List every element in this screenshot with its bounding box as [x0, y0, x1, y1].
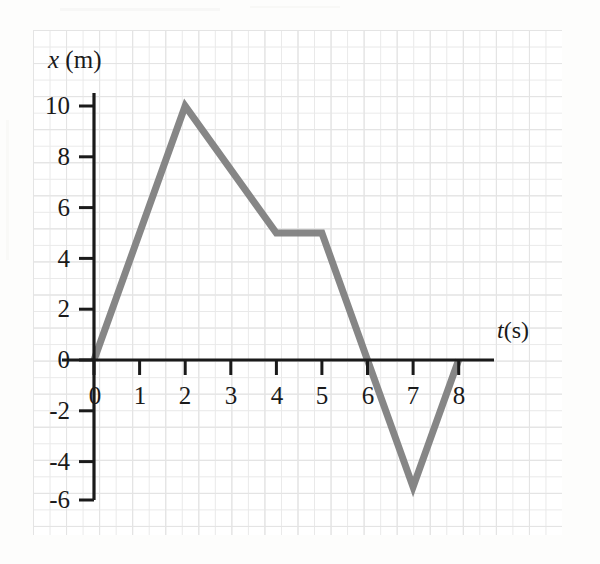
- y-tick-label: 6: [26, 195, 70, 220]
- chart-plot-svg: [0, 0, 600, 564]
- x-tick-label: 7: [398, 383, 428, 408]
- y-tick-label: 10: [26, 93, 70, 118]
- y-tick-label: 4: [26, 246, 70, 271]
- y-tick-label: -4: [16, 449, 70, 474]
- x-tick-label: 8: [444, 383, 474, 408]
- x-axis-ticks: [94, 360, 459, 375]
- y-tick-label: 0: [26, 347, 70, 372]
- y-tick-label: -6: [16, 487, 70, 512]
- y-axis-variable: x: [48, 46, 59, 73]
- y-tick-label: 8: [26, 144, 70, 169]
- x-tick-label: 4: [262, 383, 292, 408]
- x-axis-label: t(s): [497, 318, 529, 342]
- y-axis-unit: (m): [65, 46, 101, 73]
- x-axis-variable: t: [497, 317, 504, 343]
- x-tick-label: 2: [170, 383, 200, 408]
- position-time-graph-figure: x (m) t(s) 10 8 6 4 2 0 -2 -4 -6 0 1 2 3…: [0, 0, 600, 564]
- y-tick-label: 2: [26, 296, 70, 321]
- position-curve: [94, 106, 459, 487]
- y-tick-label: -2: [16, 398, 70, 423]
- y-axis-ticks: [79, 106, 94, 500]
- x-tick-label: 5: [307, 383, 337, 408]
- x-tick-label: 1: [125, 383, 155, 408]
- x-axis-unit: (s): [504, 317, 529, 343]
- y-axis-label: x (m): [48, 47, 101, 72]
- x-tick-label: 0: [80, 383, 110, 408]
- x-tick-label: 3: [216, 383, 246, 408]
- x-tick-label: 6: [353, 383, 383, 408]
